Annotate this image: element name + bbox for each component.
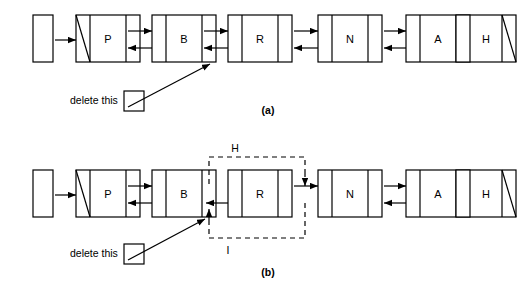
node-b-a: B <box>152 15 216 62</box>
node-label: R <box>256 33 264 45</box>
delete-this-arrow <box>128 219 205 260</box>
node-label: N <box>346 188 354 200</box>
node-label: R <box>256 188 264 200</box>
diagram-canvas: P B R <box>0 0 519 288</box>
link-n-a-b <box>384 186 406 203</box>
node-r-a: R <box>228 15 292 62</box>
head-pointer-a <box>33 15 76 62</box>
node-p-b: P <box>76 170 140 217</box>
panel-caption-b: (b) <box>261 266 274 278</box>
node-r-b: R <box>228 170 292 217</box>
delete-this-box <box>124 91 144 111</box>
node-label: A <box>434 188 442 200</box>
head-pointer-b <box>33 170 76 217</box>
node-label: H <box>482 188 490 200</box>
node-label: H <box>482 33 490 45</box>
delete-annotation-a: delete this <box>70 64 210 111</box>
node-n-a: N <box>318 15 382 62</box>
delete-this-label: delete this <box>70 94 118 106</box>
dashed-label-i: I <box>227 244 230 256</box>
link-n-a-a <box>384 31 406 48</box>
delete-this-label: delete this <box>70 247 118 259</box>
node-label: P <box>104 33 111 45</box>
node-label: B <box>180 33 187 45</box>
node-label: N <box>346 33 354 45</box>
delete-this-box <box>124 244 144 264</box>
node-b-b: B <box>152 170 216 217</box>
panel-a: P B R <box>33 15 516 116</box>
panel-b: P B R <box>33 142 516 278</box>
dashed-label-h: H <box>231 142 239 154</box>
delete-annotation-b: delete this <box>70 219 205 264</box>
linked-list-diagram: P B R <box>0 0 519 288</box>
node-n-b: N <box>318 170 382 217</box>
node-label: A <box>434 33 442 45</box>
node-label: P <box>104 188 111 200</box>
node-label: B <box>180 188 187 200</box>
node-h-b: H <box>456 170 516 217</box>
panel-caption-a: (a) <box>262 104 275 116</box>
link-r-n-a <box>294 31 318 48</box>
node-p-a: P <box>76 15 140 62</box>
delete-this-arrow <box>128 64 210 107</box>
node-h-a: H <box>456 15 516 62</box>
